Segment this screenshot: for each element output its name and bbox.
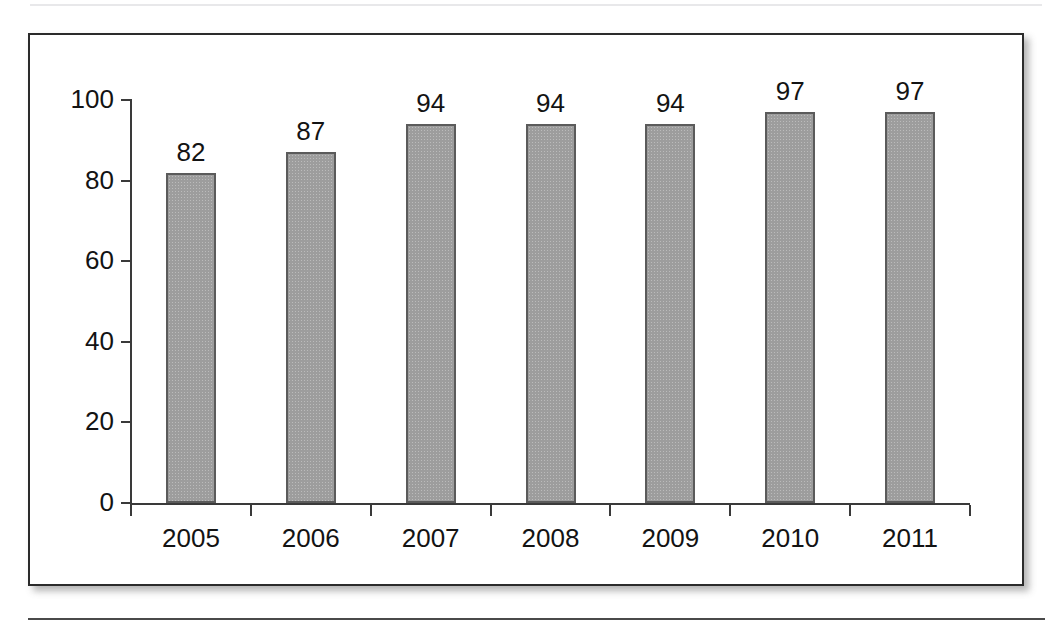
x-axis-tick-label: 2008 xyxy=(491,523,611,553)
bar-value-label: 94 xyxy=(371,89,491,117)
y-axis-tick-label: 80 xyxy=(50,167,114,193)
bar-value-label: 97 xyxy=(730,77,850,105)
x-axis-tick-label: 2006 xyxy=(251,523,371,553)
top-horizontal-rule xyxy=(30,4,1042,6)
bar xyxy=(645,124,695,503)
bar xyxy=(765,112,815,503)
bar-value-label: 94 xyxy=(610,89,730,117)
bar-chart-plot-area: 020406080100 200520062007200820092010201… xyxy=(30,35,1026,588)
y-axis-tick-label: 60 xyxy=(50,247,114,273)
x-axis-tick xyxy=(609,505,611,516)
x-axis-tick xyxy=(729,505,731,516)
y-axis-tick-label: 0 xyxy=(50,489,114,515)
x-axis-tick-label: 2010 xyxy=(730,523,850,553)
bottom-horizontal-rule xyxy=(28,618,1045,620)
y-axis-tick xyxy=(121,99,131,101)
x-axis-line xyxy=(130,503,970,505)
x-axis-tick xyxy=(849,505,851,516)
bar-value-label: 87 xyxy=(251,117,371,145)
y-axis-tick-label: 40 xyxy=(50,328,114,354)
x-axis-tick-label: 2009 xyxy=(610,523,730,553)
bar xyxy=(406,124,456,503)
x-axis-tick xyxy=(370,505,372,516)
y-axis-tick-labels: 020406080100 xyxy=(38,35,114,588)
bar xyxy=(286,152,336,503)
x-axis-tick-label: 2007 xyxy=(371,523,491,553)
y-axis-tick-label: 100 xyxy=(50,86,114,112)
bar xyxy=(526,124,576,503)
y-axis-tick xyxy=(121,502,131,504)
x-axis-tick-label: 2005 xyxy=(131,523,251,553)
y-axis-tick xyxy=(121,180,131,182)
x-axis-tick xyxy=(130,505,132,516)
bar-value-label: 94 xyxy=(491,89,611,117)
bar xyxy=(166,173,216,503)
y-axis-tick xyxy=(121,260,131,262)
x-axis-tick xyxy=(250,505,252,516)
bar xyxy=(885,112,935,503)
bar-value-label: 82 xyxy=(131,138,251,166)
y-axis-tick xyxy=(121,421,131,423)
y-axis-tick xyxy=(121,341,131,343)
x-axis-tick xyxy=(490,505,492,516)
bar-value-label: 97 xyxy=(850,77,970,105)
x-axis-tick xyxy=(969,505,971,516)
x-axis-tick-label: 2011 xyxy=(850,523,970,553)
chart-frame: 020406080100 200520062007200820092010201… xyxy=(28,33,1024,586)
y-axis-tick-label: 20 xyxy=(50,408,114,434)
